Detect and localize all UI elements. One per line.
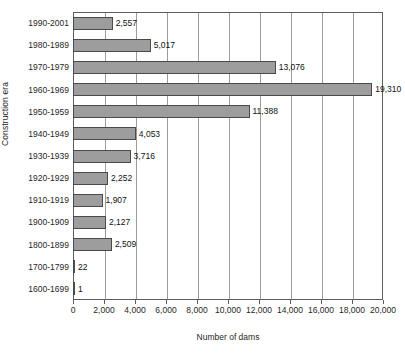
category-label: 1990-2001 <box>0 19 69 28</box>
x-axis-tick-label: 16,000 <box>308 306 334 315</box>
x-axis-tick <box>383 300 384 304</box>
bars-layer: 2,5575,01713,07619,31011,3884,0533,7162,… <box>73 12 383 300</box>
bar-value-label: 2,509 <box>112 240 136 249</box>
bar-value-label: 3,716 <box>131 152 155 161</box>
x-axis-tick <box>73 300 74 304</box>
x-axis-tick-label: 10,000 <box>215 306 241 315</box>
bar-value-label: 2,127 <box>106 218 130 227</box>
bar-row: 2,127 <box>73 216 383 229</box>
bar-row: 22 <box>73 260 383 273</box>
category-label: 1900-1909 <box>0 218 69 227</box>
bar-value-label: 22 <box>75 263 87 272</box>
category-label: 1980-1989 <box>0 41 69 50</box>
x-axis-tick-label: 2,000 <box>93 306 114 315</box>
bar-value-label: 2,557 <box>113 19 137 28</box>
category-label: 1700-1799 <box>0 263 69 272</box>
bar-value-label: 5,017 <box>151 41 175 50</box>
x-axis-tick-label: 18,000 <box>339 306 365 315</box>
x-axis-tick <box>104 300 105 304</box>
bar-value-label: 11,388 <box>250 107 278 116</box>
bar <box>73 61 276 74</box>
bar <box>73 150 131 163</box>
bar-row: 3,716 <box>73 150 383 163</box>
category-label: 1600-1699 <box>0 285 69 294</box>
x-axis-tick <box>352 300 353 304</box>
category-label: 1800-1899 <box>0 241 69 250</box>
bar-row: 2,557 <box>73 17 383 30</box>
x-axis-tick <box>290 300 291 304</box>
bar-value-label: 19,310 <box>372 85 401 94</box>
bar-value-label: 2,252 <box>108 174 132 183</box>
bar-chart: Construction era 2,5575,01713,07619,3101… <box>0 0 405 356</box>
x-axis-tick <box>197 300 198 304</box>
x-axis-title: Number of dams <box>73 332 383 342</box>
x-axis-tick-label: 8,000 <box>186 306 207 315</box>
bar <box>73 83 372 96</box>
bar-row: 1,907 <box>73 194 383 207</box>
x-axis-tick-label: 6,000 <box>155 306 176 315</box>
category-label: 1970-1979 <box>0 63 69 72</box>
category-label: 1950-1959 <box>0 108 69 117</box>
bar-row: 19,310 <box>73 83 383 96</box>
bar-row: 4,053 <box>73 127 383 140</box>
bar <box>73 39 151 52</box>
bar-value-label: 1,907 <box>103 196 127 205</box>
bar-row: 1 <box>73 282 383 295</box>
bar <box>73 105 250 118</box>
bar-row: 13,076 <box>73 61 383 74</box>
bar-value-label: 1 <box>75 285 83 294</box>
x-axis-tick <box>321 300 322 304</box>
category-label: 1920-1929 <box>0 174 69 183</box>
bar <box>73 127 136 140</box>
x-axis-tick <box>259 300 260 304</box>
x-axis-tick-label: 14,000 <box>277 306 303 315</box>
bar-row: 2,252 <box>73 172 383 185</box>
x-axis-tick-label: 4,000 <box>124 306 145 315</box>
x-axis-tick-label: 20,000 <box>370 306 396 315</box>
bar-value-label: 4,053 <box>136 130 160 139</box>
category-label: 1910-1919 <box>0 196 69 205</box>
category-label: 1960-1969 <box>0 86 69 95</box>
bar-row: 5,017 <box>73 39 383 52</box>
bar-row: 2,509 <box>73 238 383 251</box>
bar <box>73 238 112 251</box>
x-axis-tick <box>166 300 167 304</box>
category-label: 1940-1949 <box>0 130 69 139</box>
bar <box>73 216 106 229</box>
bar <box>73 172 108 185</box>
bar <box>73 17 113 30</box>
bar-value-label: 13,076 <box>276 63 305 72</box>
bar <box>73 194 103 207</box>
category-label: 1930-1939 <box>0 152 69 161</box>
bar-row: 11,388 <box>73 105 383 118</box>
x-axis-tick-label: 12,000 <box>246 306 272 315</box>
x-axis-tick <box>228 300 229 304</box>
x-axis-tick <box>135 300 136 304</box>
category-axis-labels: 1990-20011980-19891970-19791960-19691950… <box>0 12 69 300</box>
x-axis-tick-label: 0 <box>71 306 76 315</box>
